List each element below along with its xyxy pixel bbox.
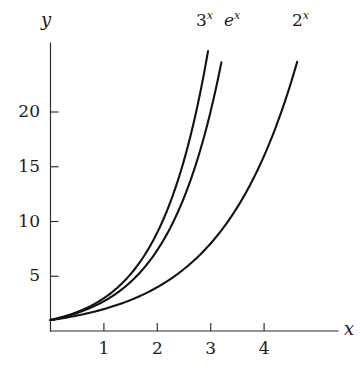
curve-label-2x: 2x — [292, 12, 309, 29]
y-tick-marks — [51, 112, 59, 276]
curve-label-3x: 3x — [196, 12, 213, 29]
x-tick-marks — [104, 323, 264, 331]
x-tick-label: 3 — [191, 340, 231, 357]
x-tick-label: 2 — [137, 340, 177, 357]
curves-group — [51, 51, 298, 320]
plot-canvas — [0, 0, 361, 382]
curve-ex — [51, 62, 222, 320]
x-tick-label: 4 — [244, 340, 284, 357]
y-tick-label: 10 — [0, 213, 40, 230]
chart-figure: y x 5101520 1234 3xex2x — [0, 0, 361, 382]
y-tick-label: 20 — [0, 103, 40, 120]
axes-group — [51, 43, 339, 331]
y-axis-label: y — [41, 11, 51, 29]
x-tick-label: 1 — [84, 340, 124, 357]
x-axis-label: x — [344, 320, 354, 338]
curve-label-ex: ex — [224, 12, 240, 29]
y-tick-label: 15 — [0, 158, 40, 175]
curve-3x — [51, 51, 209, 320]
y-tick-label: 5 — [0, 267, 40, 284]
